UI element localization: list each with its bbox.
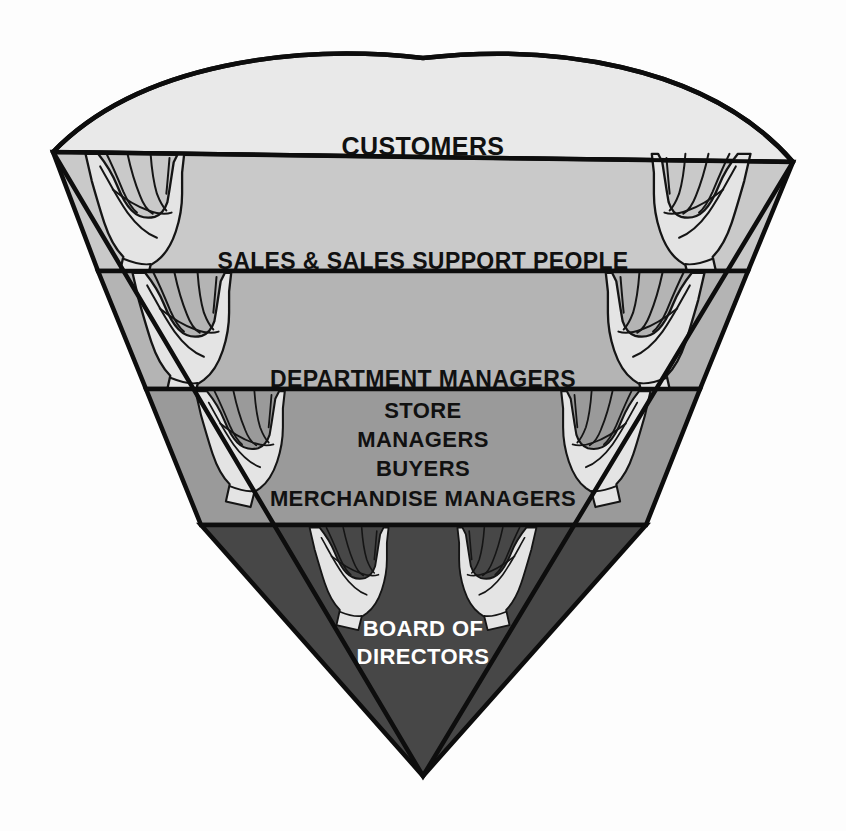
level-store-managers-label-line-4: MERCHANDISE MANAGERS [270, 486, 576, 511]
inverted-pyramid-diagram: CUSTOMERS SALES & SALES SUPPORT PEOPLE [0, 0, 846, 831]
pyramid-graphic: CUSTOMERS SALES & SALES SUPPORT PEOPLE [0, 0, 846, 831]
level-department-managers: DEPARTMENT MANAGERS [98, 271, 748, 401]
level-board-of-directors: BOARD OF DIRECTORS [201, 525, 646, 776]
level-store-managers-label-line-1: STORE [384, 398, 461, 423]
level-store-managers-label-line-2: MANAGERS [357, 427, 489, 452]
level-sales-support: SALES & SALES SUPPORT PEOPLE [53, 152, 793, 282]
level-board-of-directors-label-line-1: BOARD OF [363, 616, 484, 641]
level-customers: CUSTOMERS [53, 54, 793, 162]
level-board-of-directors-label-line-2: DIRECTORS [357, 644, 490, 669]
level-store-managers-label-line-3: BUYERS [376, 456, 470, 481]
